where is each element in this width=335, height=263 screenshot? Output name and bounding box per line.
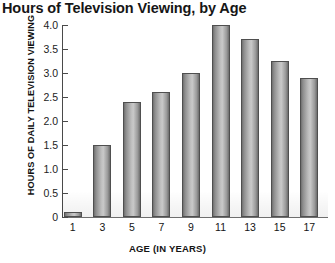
bar[interactable]: [123, 102, 141, 217]
y-axis-tick: [62, 169, 68, 170]
plot-area: [62, 25, 328, 217]
bar[interactable]: [152, 92, 170, 217]
y-axis-tick: [62, 193, 68, 194]
y-axis-tick: [62, 25, 68, 26]
bar[interactable]: [182, 73, 200, 217]
y-axis-tick: [62, 121, 68, 122]
x-axis-tick-label: 15: [265, 221, 295, 233]
bar[interactable]: [271, 61, 289, 217]
x-axis-title: AGE (IN YEARS): [0, 243, 335, 254]
bar[interactable]: [300, 78, 318, 217]
y-axis-tick: [62, 145, 68, 146]
x-axis-tick-label: 13: [235, 221, 265, 233]
y-axis-tick-label: 0.5: [32, 187, 58, 199]
y-axis-tick-label: 2.5: [32, 91, 58, 103]
y-axis-tick: [62, 97, 68, 98]
x-axis-tick-label: 17: [294, 221, 324, 233]
y-axis-tick-label: 3.5: [32, 43, 58, 55]
y-axis-tick: [62, 217, 68, 218]
x-axis-tick-label: 1: [58, 221, 88, 233]
bar[interactable]: [241, 39, 259, 217]
x-axis-tick-label: 9: [176, 221, 206, 233]
x-axis-tick-label: 3: [87, 221, 117, 233]
chart-figure: Hours of Television Viewing, by Age HOUR…: [0, 0, 335, 263]
x-axis-tick-label: 11: [206, 221, 236, 233]
y-axis-tick-labels: 4.03.53.02.52.01.51.00.50: [30, 0, 58, 263]
y-axis-tick-label: 2.0: [32, 115, 58, 127]
x-axis-tick-label: 7: [146, 221, 176, 233]
bar[interactable]: [93, 145, 111, 217]
x-axis-tick-label: 5: [117, 221, 147, 233]
y-axis-tick-label: 1.0: [32, 163, 58, 175]
y-axis-tick-label: 4.0: [32, 19, 58, 31]
y-axis-tick-label: 3.0: [32, 67, 58, 79]
y-axis-tick-label: 1.5: [32, 139, 58, 151]
y-axis-tick: [62, 49, 68, 50]
bar[interactable]: [212, 25, 230, 217]
x-axis-line: [62, 217, 328, 218]
y-axis-tick-label: 0: [32, 211, 58, 223]
y-axis-tick: [62, 73, 68, 74]
